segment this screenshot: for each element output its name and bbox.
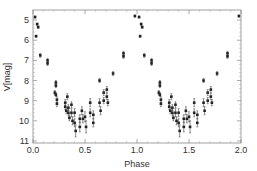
y-tick-label: 7 bbox=[24, 55, 29, 65]
light-curve-chart: 567891011 0.00.51.01.52.0 Phase V[mag] bbox=[0, 0, 257, 171]
y-tick-label: 8 bbox=[24, 76, 29, 86]
x-tick-label: 2.0 bbox=[235, 145, 248, 155]
x-axis-ticks: 0.00.51.01.52.0 bbox=[27, 10, 248, 155]
data-points bbox=[34, 15, 240, 137]
x-tick-label: 1.0 bbox=[131, 145, 144, 155]
x-tick-label: 0.5 bbox=[79, 145, 92, 155]
y-tick-label: 9 bbox=[24, 96, 29, 106]
x-tick-label: 0.0 bbox=[27, 145, 40, 155]
y-tick-label: 5 bbox=[24, 15, 29, 25]
plot-frame bbox=[33, 10, 241, 143]
x-tick-label: 1.5 bbox=[183, 145, 196, 155]
y-axis-ticks: 567891011 bbox=[19, 15, 241, 146]
y-tick-label: 6 bbox=[24, 35, 29, 45]
x-axis-label: Phase bbox=[124, 159, 150, 169]
y-axis-label: V[mag] bbox=[2, 63, 12, 92]
y-tick-label: 10 bbox=[19, 116, 29, 126]
